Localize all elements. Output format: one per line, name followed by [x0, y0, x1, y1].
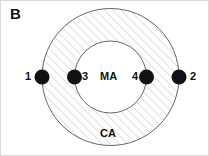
marker-point-4 — [139, 70, 154, 85]
label-point-3: 3 — [82, 71, 88, 82]
label-region-ca: CA — [100, 128, 116, 139]
label-point-2: 2 — [190, 71, 196, 82]
label-point-1: 1 — [25, 71, 31, 82]
panel-letter-b: B — [10, 6, 21, 21]
label-region-ma: MA — [100, 71, 117, 82]
label-point-4: 4 — [132, 71, 138, 82]
marker-point-1 — [35, 70, 50, 85]
marker-point-3 — [67, 70, 82, 85]
figure-panel-b: B 1 3 MA 4 2 CA — [0, 0, 209, 156]
marker-point-2 — [172, 70, 187, 85]
